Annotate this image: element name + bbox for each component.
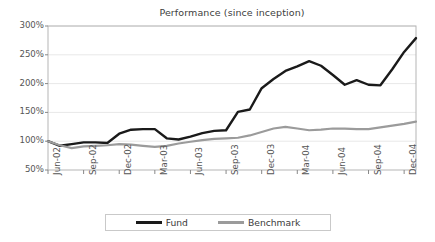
x-axis-tick-label: Sep-02 <box>88 144 98 175</box>
x-axis-tick-label: Mar-03 <box>159 145 169 175</box>
legend-swatch-benchmark <box>218 221 244 224</box>
performance-chart: Performance (since inception) 300%250%20… <box>0 0 435 242</box>
x-axis-tick-labels: Jun-02Sep-02Dec-02Mar-03Jun-03Sep-03Dec-… <box>0 0 435 242</box>
x-axis-tick-label: Dec-04 <box>408 144 418 175</box>
legend-item-benchmark[interactable]: Benchmark <box>218 218 300 227</box>
x-axis-tick-label: Jun-02 <box>52 147 62 175</box>
x-axis-tick-label: Jun-04 <box>337 147 347 175</box>
x-axis-tick-label: Jun-03 <box>194 147 204 175</box>
legend-label-benchmark: Benchmark <box>248 218 300 227</box>
x-axis-tick-label: Dec-03 <box>266 144 276 175</box>
legend-swatch-fund <box>136 221 162 224</box>
legend-item-fund[interactable]: Fund <box>136 218 188 227</box>
x-axis-tick-label: Dec-02 <box>123 144 133 175</box>
x-axis-tick-label: Sep-03 <box>230 144 240 175</box>
x-axis-tick-label: Sep-04 <box>373 144 383 175</box>
legend-label-fund: Fund <box>166 218 188 227</box>
x-axis-tick-label: Mar-04 <box>301 145 311 175</box>
chart-legend: Fund Benchmark <box>105 214 331 231</box>
